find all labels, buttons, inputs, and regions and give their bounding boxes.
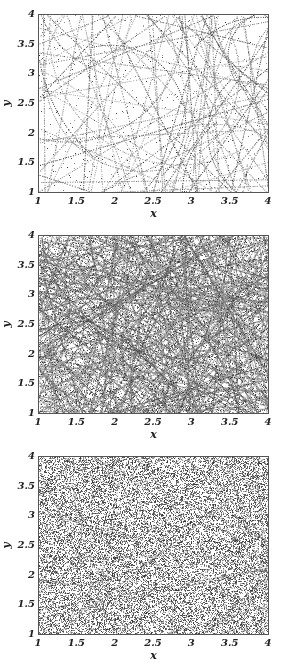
y-tick-label: 1.5 bbox=[5, 599, 35, 609]
y-tick-label: 3.5 bbox=[5, 39, 35, 49]
x-axis-label: x bbox=[150, 208, 157, 219]
y-axis-label: y bbox=[1, 542, 12, 548]
plot-area-3 bbox=[38, 456, 269, 635]
y-tick-label: 1 bbox=[5, 629, 35, 639]
y-tick-label: 2 bbox=[5, 128, 35, 138]
x-tick-label: 1.5 bbox=[68, 196, 85, 206]
x-tick-label: 4 bbox=[265, 417, 272, 427]
x-tick-label: 1.5 bbox=[68, 417, 85, 427]
y-tick-label: 1.5 bbox=[5, 378, 35, 388]
x-tick-label: 1 bbox=[35, 638, 42, 648]
x-tick-label: 3.5 bbox=[221, 638, 238, 648]
x-tick-label: 3 bbox=[188, 417, 195, 427]
y-tick-label: 2 bbox=[5, 570, 35, 580]
x-tick-label: 2 bbox=[111, 417, 118, 427]
y-tick-label: 3 bbox=[5, 510, 35, 520]
x-tick-label: 4 bbox=[265, 196, 272, 206]
y-tick-label: 1 bbox=[5, 187, 35, 197]
trajectory-canvas-3 bbox=[39, 457, 269, 635]
y-tick-label: 4 bbox=[5, 230, 35, 240]
y-tick-label: 4 bbox=[5, 9, 35, 19]
x-tick-label: 3 bbox=[188, 638, 195, 648]
x-tick-label: 1 bbox=[35, 417, 42, 427]
y-axis-label: y bbox=[1, 100, 12, 106]
x-tick-label: 3.5 bbox=[221, 196, 238, 206]
y-tick-label: 3 bbox=[5, 68, 35, 78]
y-axis-label: y bbox=[1, 321, 12, 327]
x-tick-label: 2.5 bbox=[144, 417, 161, 427]
panel-3 bbox=[0, 0, 284, 665]
y-tick-label: 3 bbox=[5, 289, 35, 299]
x-tick-label: 2.5 bbox=[144, 638, 161, 648]
y-tick-label: 1 bbox=[5, 408, 35, 418]
x-tick-label: 1.5 bbox=[68, 638, 85, 648]
x-tick-label: 4 bbox=[265, 638, 272, 648]
x-tick-label: 3.5 bbox=[221, 417, 238, 427]
y-tick-label: 3.5 bbox=[5, 481, 35, 491]
y-tick-label: 1.5 bbox=[5, 157, 35, 167]
x-axis-label: x bbox=[150, 429, 157, 440]
y-tick-label: 4 bbox=[5, 451, 35, 461]
x-tick-label: 2 bbox=[111, 638, 118, 648]
y-tick-label: 2 bbox=[5, 349, 35, 359]
x-axis-label: x bbox=[150, 650, 157, 661]
x-tick-label: 1 bbox=[35, 196, 42, 206]
x-tick-label: 2 bbox=[111, 196, 118, 206]
x-tick-label: 3 bbox=[188, 196, 195, 206]
x-tick-label: 2.5 bbox=[144, 196, 161, 206]
y-tick-label: 3.5 bbox=[5, 260, 35, 270]
